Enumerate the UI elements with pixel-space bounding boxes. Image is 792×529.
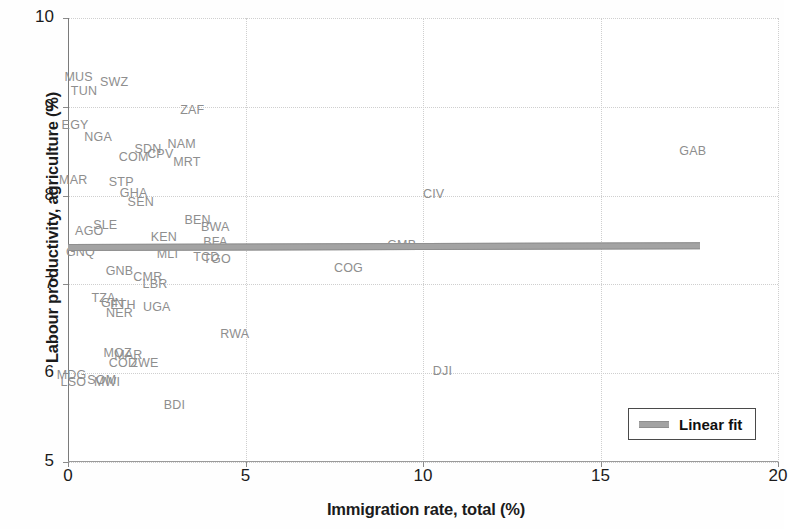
x-tick-mark	[246, 462, 247, 467]
data-point-label: RWA	[220, 328, 249, 341]
x-axis-title: Immigration rate, total (%)	[68, 500, 784, 519]
gridline-vertical	[423, 18, 425, 462]
x-tick-label: 20	[758, 466, 792, 486]
data-point-label: LBR	[143, 278, 168, 291]
y-tick-label: 8	[8, 185, 54, 205]
data-point-label: BDI	[164, 399, 185, 412]
data-point-label: MWI	[94, 376, 120, 389]
y-tick-mark	[63, 18, 68, 19]
data-point-label: COM	[119, 150, 149, 163]
data-point-label: DJI	[433, 365, 452, 378]
data-point-label: NGA	[84, 131, 112, 144]
plot-area: MUSSWZTUNZAFEGYNGANAMSDNCPVCOMGABMRTMARS…	[68, 18, 778, 462]
data-point-label: MAR	[59, 173, 87, 186]
data-point-label: LSO	[61, 376, 87, 389]
data-point-label: MRT	[173, 156, 200, 169]
gridline-vertical	[246, 18, 248, 462]
data-point-label: MUS	[64, 71, 92, 84]
data-point-label: CPV	[147, 148, 173, 161]
data-point-label: NER	[106, 307, 133, 320]
data-point-label: ZWE	[130, 357, 158, 370]
data-point-label: TUN	[71, 85, 97, 98]
data-point-label: GNB	[106, 265, 134, 278]
data-point-label: COG	[334, 261, 363, 274]
y-tick-label: 6	[8, 362, 54, 382]
data-point-label: BWA	[201, 220, 230, 233]
data-point-label: TGO	[203, 252, 231, 265]
x-tick-label: 10	[403, 466, 443, 486]
y-tick-label: 7	[8, 273, 54, 293]
data-point-label: ZAF	[180, 104, 204, 117]
y-tick-mark	[63, 196, 68, 197]
x-tick-mark	[423, 462, 424, 467]
x-tick-mark	[68, 462, 69, 467]
data-point-label: GAB	[679, 145, 706, 158]
x-tick-label: 15	[581, 466, 621, 486]
y-tick-label: 10	[8, 7, 54, 27]
gridline-vertical	[778, 18, 780, 462]
legend[interactable]: Linear fit	[628, 408, 756, 440]
data-point-label: UGA	[143, 300, 171, 313]
x-tick-mark	[601, 462, 602, 467]
gridline-vertical	[601, 18, 603, 462]
y-tick-label: 9	[8, 96, 54, 116]
linear-fit-line	[68, 242, 700, 251]
data-point-label: SWZ	[100, 76, 128, 89]
x-tick-label: 0	[48, 466, 88, 486]
x-tick-label: 5	[226, 466, 266, 486]
data-point-label: CIV	[423, 188, 444, 201]
legend-line-swatch	[639, 421, 669, 428]
data-point-label: KEN	[151, 231, 177, 244]
y-tick-mark	[63, 284, 68, 285]
data-point-label: SEN	[128, 196, 154, 209]
legend-label: Linear fit	[679, 416, 742, 433]
y-tick-mark	[63, 107, 68, 108]
x-tick-mark	[778, 462, 779, 467]
data-point-label: AGO	[75, 225, 103, 238]
y-axis-line	[68, 18, 69, 462]
